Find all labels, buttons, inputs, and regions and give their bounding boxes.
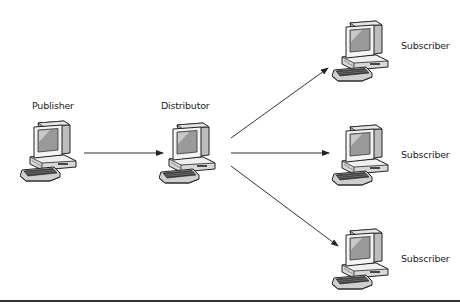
publisher-label: Publisher [32,100,74,111]
desktop-computer-icon [159,119,221,185]
desktop-computer-icon [332,121,394,187]
distributor-label: Distributor [161,100,209,111]
subscriber-3-label: Subscriber [401,253,450,264]
replication-diagram: Publisher Distributor Subscriber Subscri… [0,0,460,305]
desktop-computer-icon [332,225,394,291]
desktop-computer-icon [332,17,394,83]
arrow-distributor-to-subscriber-1 [231,68,328,138]
bottom-divider [0,300,460,302]
arrow-distributor-to-subscriber-3 [231,166,338,246]
desktop-computer-icon [20,117,82,183]
subscriber-1-label: Subscriber [401,40,450,51]
subscriber-2-label: Subscriber [401,149,450,160]
